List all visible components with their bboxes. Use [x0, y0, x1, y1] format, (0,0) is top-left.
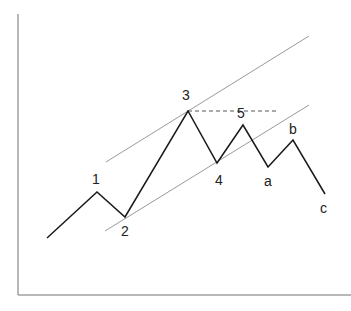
- label-wave-4: 4: [215, 172, 223, 188]
- lower-channel-line: [105, 105, 309, 231]
- label-wave-a: a: [264, 173, 272, 189]
- label-wave-2: 2: [121, 223, 129, 239]
- wave-path: [47, 111, 325, 238]
- label-wave-c: c: [320, 200, 327, 216]
- elliott-wave-diagram: 1 2 3 4 5 a b c: [0, 0, 351, 311]
- upper-channel-line: [106, 36, 309, 162]
- label-wave-1: 1: [92, 171, 100, 187]
- label-wave-3: 3: [182, 87, 190, 103]
- label-wave-b: b: [289, 121, 297, 137]
- label-wave-5: 5: [237, 105, 245, 121]
